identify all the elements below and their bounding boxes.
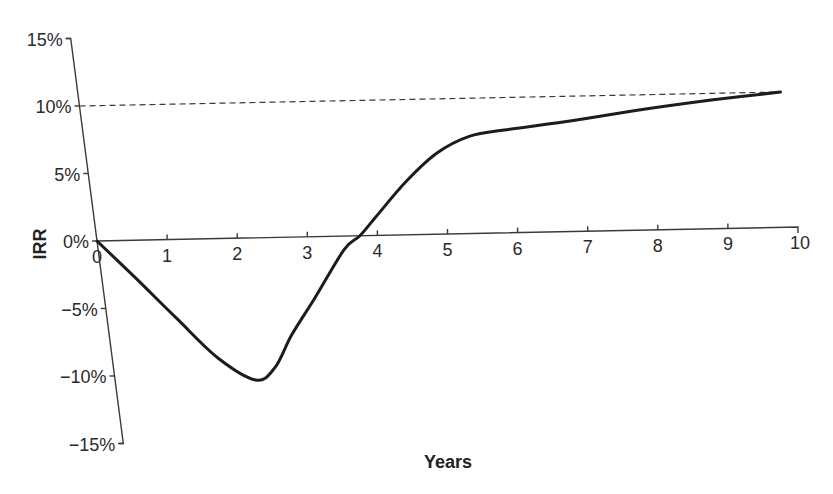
irr-chart: 15%10%5%0%−5%−10%−15% 012345678910 Years…: [0, 0, 833, 494]
y-tick-label: 15%: [27, 30, 63, 50]
irr-curve: [97, 92, 781, 380]
y-tick-label: 5%: [54, 165, 80, 185]
y-tick-label: 0%: [63, 232, 89, 252]
y-tick-label: −5%: [61, 300, 98, 320]
x-tick-label: 5: [442, 240, 452, 260]
x-tick-label: 4: [372, 241, 382, 261]
y-axis-title: IRR: [30, 229, 50, 260]
x-tick-label: 10: [790, 233, 810, 253]
x-tick-label: 8: [653, 236, 663, 256]
x-tick-label: 7: [583, 237, 593, 257]
y-tick-label: 10%: [35, 97, 71, 117]
x-tick-label: 9: [723, 234, 733, 254]
x-tick-label: 6: [513, 239, 523, 259]
y-tick-label: −15%: [69, 435, 116, 455]
x-axis-title: Years: [424, 452, 472, 472]
y-tick-label: −10%: [60, 367, 107, 387]
x-tick-label: 1: [162, 246, 172, 266]
x-tick-label: 2: [232, 244, 242, 264]
x-tick-label: 3: [302, 243, 312, 263]
x-axis-ticks: 012345678910: [92, 223, 810, 267]
